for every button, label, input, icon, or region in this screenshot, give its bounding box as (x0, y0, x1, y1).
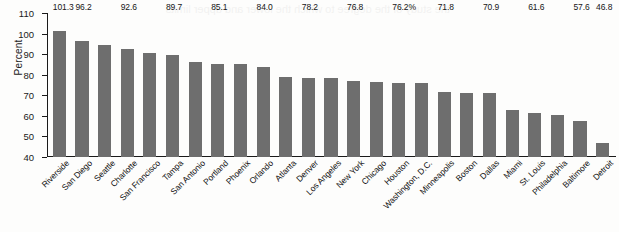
x-axis-label: Dallas (478, 158, 501, 181)
bar-chicago[interactable] (370, 13, 383, 157)
bar-value-label: 89.7 (166, 2, 182, 12)
bar-value-label: 76.8 (347, 2, 363, 12)
bar-detroit[interactable]: 46.8 (596, 13, 609, 157)
x-axis-label: Phoenix (224, 158, 252, 186)
bar-seattle[interactable] (98, 13, 111, 157)
bar-boston[interactable] (460, 13, 473, 157)
bar-rect (551, 115, 564, 157)
bar-rect (370, 82, 383, 157)
y-tick-label: 40 (23, 152, 34, 163)
y-tick-label: 80 (23, 69, 34, 80)
bar-rect (506, 110, 519, 157)
y-tick-label: 110 (19, 8, 34, 19)
bar-orlando[interactable]: 84.0 (257, 13, 270, 157)
y-tick-110: 110 (42, 13, 47, 14)
bar-value-label: 101.3 (53, 2, 74, 12)
y-tick-60: 60 (42, 116, 47, 117)
bar-value-label: 76.2% (392, 2, 416, 12)
x-axis-label: Boston (454, 158, 479, 183)
bar-rect: 78.2 (302, 78, 315, 157)
bar-rect: 61.6 (528, 113, 541, 157)
y-tick-label: 100 (18, 28, 34, 39)
bar-los-angeles[interactable] (324, 13, 337, 157)
bar-dallas[interactable]: 70.9 (483, 13, 496, 157)
bar-new-york[interactable]: 76.8 (347, 13, 360, 157)
bar-value-label: 61.6 (528, 2, 544, 12)
bar-rect: 101.3 (53, 31, 66, 157)
bar-washington-d-c[interactable] (415, 13, 428, 157)
bar-atlanta[interactable] (279, 13, 292, 157)
bar-rect (234, 64, 247, 157)
bar-rect: 85.1 (211, 64, 224, 157)
bar-value-label: 46.8 (596, 2, 612, 12)
bar-phoenix[interactable] (234, 13, 247, 157)
bar-baltimore[interactable]: 57.6 (573, 13, 586, 157)
y-tick-label: 60 (23, 110, 34, 121)
bar-san-diego[interactable]: 96.2 (75, 13, 88, 157)
bar-value-label: 96.2 (75, 2, 91, 12)
plot-area: 405060708090100110 101.396.292.689.785.1… (47, 13, 613, 157)
bar-rect: 46.8 (596, 143, 609, 157)
bar-rect (143, 53, 156, 158)
bar-rect: 89.7 (166, 55, 179, 157)
bar-tampa[interactable]: 89.7 (166, 13, 179, 157)
bar-miami[interactable] (506, 13, 519, 157)
bar-rect (415, 83, 428, 157)
y-tick-label: 70 (23, 90, 34, 101)
bar-rect: 84.0 (257, 67, 270, 158)
y-tick-90: 90 (42, 54, 47, 55)
bar-houston[interactable]: 76.2% (392, 13, 405, 157)
bar-san-francisco[interactable] (143, 13, 156, 157)
y-tick-70: 70 (42, 95, 47, 96)
y-tick-label: 90 (23, 49, 34, 60)
y-tick-label: 50 (23, 131, 34, 142)
bar-rect (460, 93, 473, 157)
bar-philadelphia[interactable] (551, 13, 564, 157)
bar-rect (324, 78, 337, 157)
bar-riverside[interactable]: 101.3 (53, 13, 66, 157)
y-tick-50: 50 (42, 136, 47, 137)
x-axis-label: Detroit (590, 158, 614, 182)
x-axis-label: Orlando (247, 158, 275, 186)
y-tick-80: 80 (42, 75, 47, 76)
bar-rect (98, 45, 111, 157)
x-axis-label: Atlanta (272, 158, 297, 183)
bar-rect: 76.8 (347, 81, 360, 157)
bar-rect (189, 62, 202, 157)
bar-charlotte[interactable]: 92.6 (121, 13, 134, 157)
bar-rect: 57.6 (573, 121, 586, 157)
bar-rect: 76.2% (392, 83, 405, 157)
y-tick-100: 100 (42, 34, 47, 35)
bar-chart: the study of the degree to which the low… (0, 0, 619, 232)
bar-value-label: 71.8 (438, 2, 454, 12)
bar-portland[interactable]: 85.1 (211, 13, 224, 157)
bar-minneapolis[interactable]: 71.8 (438, 13, 451, 157)
bar-value-label: 85.1 (211, 2, 227, 12)
bar-rect: 70.9 (483, 93, 496, 157)
bar-san-antonio[interactable] (189, 13, 202, 157)
bar-rect: 71.8 (438, 92, 451, 157)
bar-rect: 96.2 (75, 41, 88, 157)
bar-st-louis[interactable]: 61.6 (528, 13, 541, 157)
bar-denver[interactable]: 78.2 (302, 13, 315, 157)
bar-rect: 92.6 (121, 49, 134, 157)
x-axis-labels: RiversideSan DiegoSeattleCharlotteSan Fr… (48, 158, 614, 232)
bar-value-label: 92.6 (121, 2, 137, 12)
bar-value-label: 78.2 (302, 2, 318, 12)
bar-value-label: 57.6 (573, 2, 589, 12)
bar-value-label: 84.0 (257, 2, 273, 12)
y-tick-40: 40 (42, 157, 47, 158)
bar-series: 101.396.292.689.785.184.078.276.876.2%71… (48, 13, 613, 157)
bar-rect (279, 77, 292, 157)
bar-value-label: 70.9 (483, 2, 499, 12)
